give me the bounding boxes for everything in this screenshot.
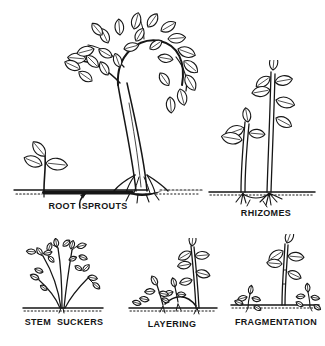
root-sprouts-illustration bbox=[8, 5, 208, 217]
layering-illustration bbox=[125, 238, 225, 316]
ground-line bbox=[209, 192, 315, 195]
fragmentation-illustration bbox=[228, 234, 323, 316]
stem-suckers-illustration bbox=[15, 238, 115, 316]
rhizomes-illustration bbox=[205, 60, 320, 210]
label-stem-suckers: STEM SUCKERS bbox=[14, 317, 114, 327]
left-fragment bbox=[234, 285, 262, 312]
layering-stems bbox=[157, 246, 199, 314]
rhizome-leaves bbox=[221, 60, 296, 146]
label-layering: LAYERING bbox=[134, 319, 210, 329]
parent-leaves bbox=[266, 234, 304, 282]
label-root-sprouts: ROOT SPROUTS bbox=[38, 201, 138, 211]
ground-line bbox=[14, 190, 204, 194]
vegetative-reproduction-diagram: ROOT SPROUTS RHIZOMES STEM SUCKERS LAYER… bbox=[0, 0, 325, 346]
ground-line bbox=[231, 305, 319, 308]
seedling-sprout bbox=[22, 139, 68, 197]
label-fragmentation: FRAGMENTATION bbox=[228, 317, 324, 327]
tree-roots bbox=[114, 175, 168, 203]
layering-leaves bbox=[132, 238, 211, 306]
sucker-leaves bbox=[26, 238, 101, 292]
label-rhizomes: RHIZOMES bbox=[226, 208, 306, 218]
ground-line bbox=[129, 308, 217, 311]
right-fragment bbox=[295, 283, 322, 311]
